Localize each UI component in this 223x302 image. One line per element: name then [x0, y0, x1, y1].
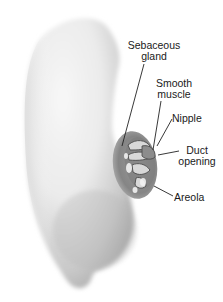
label-sebaceous-gland: Sebaceous gland — [120, 40, 188, 62]
label-duct-opening: Duct opening — [173, 145, 221, 167]
label-nipple: Nipple — [172, 113, 202, 124]
label-line: gland — [120, 51, 188, 62]
breast-anatomy-diagram: Sebaceous gland Smooth muscle Nipple Duc… — [0, 0, 223, 302]
label-line: muscle — [150, 89, 198, 100]
label-line: opening — [173, 156, 221, 167]
label-line: Areola — [174, 192, 204, 203]
label-line: Nipple — [172, 113, 202, 124]
label-areola: Areola — [174, 192, 204, 203]
label-smooth-muscle: Smooth muscle — [150, 78, 198, 100]
